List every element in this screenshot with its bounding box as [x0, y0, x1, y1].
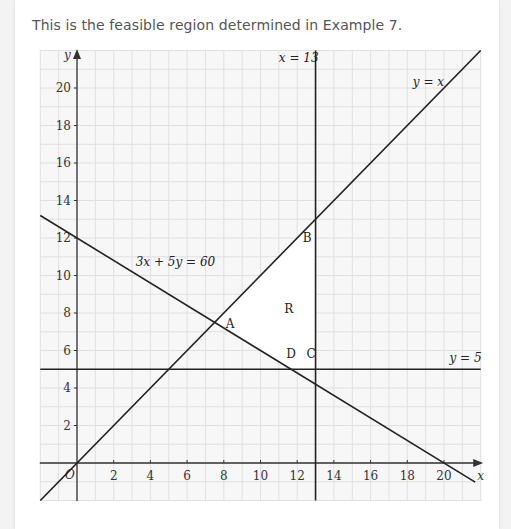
x-tick-label: 10 — [253, 469, 268, 483]
y-tick-label: 2 — [63, 419, 71, 433]
x-tick-label: 14 — [326, 469, 342, 483]
vertex-label-b: B — [303, 231, 312, 245]
x-tick-label: 6 — [183, 469, 191, 483]
y-axis-label: y — [63, 48, 71, 62]
feasible-region-chart: 24681012141618202468101214161820Oxyy = x… — [0, 0, 511, 529]
y-tick-label: 6 — [63, 344, 71, 358]
x-tick-label: 8 — [220, 469, 228, 483]
x-tick-label: 20 — [436, 469, 451, 483]
y-tick-label: 16 — [56, 156, 71, 170]
vertex-label-c: C — [306, 347, 315, 361]
x-tick-label: 2 — [110, 469, 118, 483]
region-label: R — [284, 302, 294, 316]
constraint-label-y-x: y = x — [412, 75, 444, 89]
y-tick-label: 20 — [56, 81, 71, 95]
x-tick-label: 18 — [400, 469, 415, 483]
constraint-label-x-13: x = 13 — [279, 51, 319, 65]
vertex-label-a: A — [225, 317, 235, 331]
x-tick-label: 16 — [363, 469, 378, 483]
y-tick-label: 14 — [56, 194, 72, 208]
y-tick-label: 8 — [63, 306, 71, 320]
y-tick-label: 18 — [56, 119, 71, 133]
x-tick-label: 12 — [290, 469, 305, 483]
y-tick-label: 4 — [63, 381, 71, 395]
x-axis-label: x — [477, 469, 484, 483]
y-tick-label: 10 — [56, 269, 71, 283]
constraint-label-3x-5y-60: 3x + 5y = 60 — [136, 255, 216, 269]
constraint-label-y-5: y = 5 — [449, 351, 482, 365]
vertex-label-d: D — [286, 347, 296, 361]
x-tick-label: 4 — [147, 469, 155, 483]
